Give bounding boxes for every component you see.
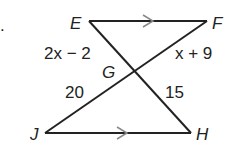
label-F: F [212,14,224,33]
label-GH: 15 [165,83,184,102]
label-JG: 20 [65,83,84,102]
triangle-diagram: . E F G H J 2x − 2 x + 9 20 15 [0,0,232,153]
segment-FJ [45,21,207,133]
label-GF: x + 9 [175,44,212,63]
problem-bullet: . [0,16,5,35]
label-EG: 2x − 2 [44,44,91,63]
label-G: G [102,63,115,82]
label-J: J [29,125,39,144]
label-H: H [196,125,209,144]
label-E: E [70,14,82,33]
